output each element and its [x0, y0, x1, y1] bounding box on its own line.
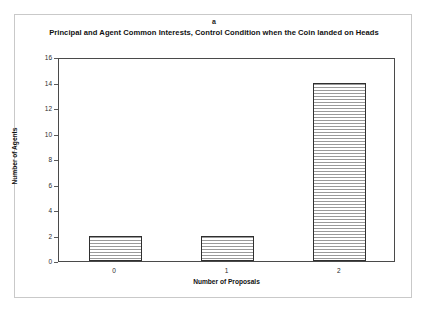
x-tick-label: 2	[319, 266, 359, 275]
bar	[201, 236, 254, 262]
y-tick-label: 14	[15, 79, 58, 89]
y-tick-label: 16	[15, 53, 58, 63]
y-tick-label: 2	[15, 232, 58, 242]
x-axis-ticks: 012	[58, 262, 395, 276]
y-tick-label: 4	[15, 206, 58, 216]
bar	[89, 236, 142, 262]
y-tick-label: 6	[15, 181, 58, 191]
figure-frame: a Principal and Agent Common Interests, …	[14, 14, 412, 298]
plot-area	[58, 58, 395, 262]
panel-letter: a	[15, 17, 413, 26]
x-axis-label: Number of Proposals	[58, 277, 395, 287]
y-tick-label: 12	[15, 104, 58, 114]
y-tick-label: 0	[15, 257, 58, 267]
x-tick-label: 0	[94, 266, 134, 275]
bar	[313, 83, 366, 262]
y-tick-label: 8	[15, 155, 58, 165]
y-axis-ticks: 0246810121416	[15, 15, 58, 297]
y-tick-label: 10	[15, 130, 58, 140]
x-tick-label: 1	[207, 266, 247, 275]
chart-title: Principal and Agent Common Interests, Co…	[41, 27, 387, 38]
